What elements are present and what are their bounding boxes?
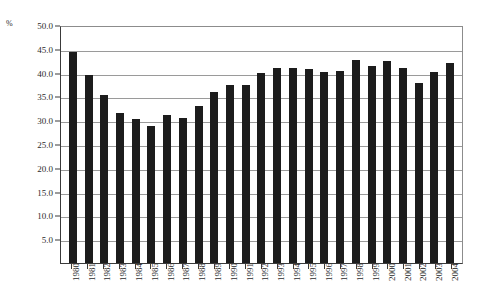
y-axis-tick-label: 45.0 xyxy=(37,45,53,54)
bar-slot xyxy=(411,27,427,263)
bar xyxy=(273,68,281,263)
bar xyxy=(226,85,234,263)
bar xyxy=(147,126,155,263)
bar-slot xyxy=(175,27,191,263)
bar-slot xyxy=(238,27,254,263)
bar xyxy=(257,73,265,263)
bar-slot xyxy=(65,27,81,263)
bar xyxy=(446,63,454,263)
x-axis-label-slot: 2003 xyxy=(427,271,443,306)
bar xyxy=(210,92,218,263)
bar xyxy=(320,72,328,263)
bar-slot xyxy=(379,27,395,263)
x-axis-label-slot: 1997 xyxy=(333,271,349,306)
x-axis-label-slot: 1999 xyxy=(364,271,380,306)
x-axis-label-slot: 1996 xyxy=(317,271,333,306)
bar xyxy=(85,75,93,263)
bar xyxy=(242,85,250,264)
bar xyxy=(430,72,438,263)
bar xyxy=(195,106,203,263)
x-axis-label-slot: 1992 xyxy=(254,271,270,306)
x-axis-label-slot: 1981 xyxy=(80,271,96,306)
x-axis-label-slot: 1987 xyxy=(175,271,191,306)
x-axis-tick-labels: 1980198119821983198419851986198719881989… xyxy=(60,271,463,306)
x-axis-label-slot: 1984 xyxy=(127,271,143,306)
bar-slot xyxy=(206,27,222,263)
bar xyxy=(368,66,376,263)
x-axis-label-slot: 1993 xyxy=(269,271,285,306)
x-axis-label-slot: 1980 xyxy=(64,271,80,306)
bar xyxy=(415,83,423,263)
bar-slot xyxy=(348,27,364,263)
x-axis-label-slot: 1985 xyxy=(143,271,159,306)
x-axis-label-slot: 1991 xyxy=(238,271,254,306)
x-axis-label-slot: 1990 xyxy=(222,271,238,306)
x-axis-label-slot: 1988 xyxy=(190,271,206,306)
bar-slot xyxy=(395,27,411,263)
bar xyxy=(163,115,171,263)
y-axis-tick-label: 50.0 xyxy=(37,22,53,31)
x-axis-label-slot: 1989 xyxy=(206,271,222,306)
bar-slot xyxy=(427,27,443,263)
x-axis-label-slot: 1998 xyxy=(348,271,364,306)
bar-slot xyxy=(96,27,112,263)
bars-container xyxy=(61,27,462,263)
bar-slot xyxy=(269,27,285,263)
bar-slot xyxy=(254,27,270,263)
x-axis-label-slot: 2001 xyxy=(396,271,412,306)
bar xyxy=(399,68,407,263)
bar xyxy=(305,69,313,263)
bar-slot xyxy=(442,27,458,263)
y-axis-tick-labels: 50.045.040.035.030.025.020.015.010.05.0 xyxy=(0,0,60,306)
bar-slot xyxy=(112,27,128,263)
y-axis-tick-label: 20.0 xyxy=(37,164,53,173)
bar-slot xyxy=(144,27,160,263)
y-axis-tick-label: 25.0 xyxy=(37,141,53,150)
bar-slot xyxy=(364,27,380,263)
bar-chart: % 50.045.040.035.030.025.020.015.010.05.… xyxy=(0,0,487,306)
bar-slot xyxy=(128,27,144,263)
x-axis-label-slot: 1983 xyxy=(111,271,127,306)
x-axis-label-slot: 2004 xyxy=(443,271,459,306)
x-axis-label-slot: 2002 xyxy=(412,271,428,306)
y-axis-tick-label: 35.0 xyxy=(37,93,53,102)
bar-slot xyxy=(159,27,175,263)
bar-slot xyxy=(301,27,317,263)
bar xyxy=(289,68,297,263)
bar-slot xyxy=(332,27,348,263)
y-axis-tick-label: 15.0 xyxy=(37,188,53,197)
bar-slot xyxy=(222,27,238,263)
x-axis-label-slot: 1995 xyxy=(301,271,317,306)
bar xyxy=(179,118,187,263)
x-axis-tick-label: 2004 xyxy=(451,263,460,281)
bar xyxy=(383,61,391,263)
bar-slot xyxy=(191,27,207,263)
bar-slot xyxy=(81,27,97,263)
bar xyxy=(69,52,77,263)
bar xyxy=(352,60,360,263)
y-axis-tick-label: 30.0 xyxy=(37,117,53,126)
bar-slot xyxy=(317,27,333,263)
bar-slot xyxy=(285,27,301,263)
x-axis-label-slot: 1994 xyxy=(285,271,301,306)
bar xyxy=(132,119,140,263)
bar xyxy=(100,95,108,263)
bar xyxy=(336,71,344,263)
y-axis-tick-label: 40.0 xyxy=(37,69,53,78)
x-axis-label-slot: 2000 xyxy=(380,271,396,306)
y-axis-tick-label: 5.0 xyxy=(42,236,53,245)
y-axis-tick-label: 10.0 xyxy=(37,212,53,221)
bar xyxy=(116,113,124,263)
plot-area xyxy=(60,26,463,264)
x-axis-label-slot: 1986 xyxy=(159,271,175,306)
x-axis-label-slot: 1982 xyxy=(96,271,112,306)
